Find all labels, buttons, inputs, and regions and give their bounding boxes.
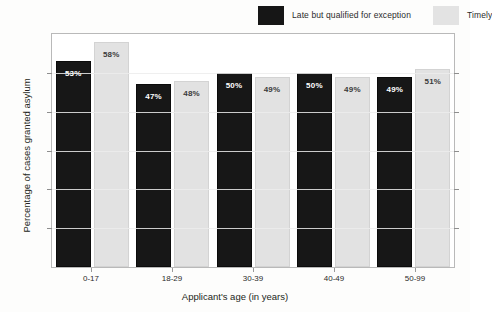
y-axis-title: Percentage of cases granted asylum	[21, 46, 32, 266]
y-tick-mark-right-20	[454, 189, 459, 190]
y-tick-mark-right-40	[454, 112, 459, 113]
x-tick-mark-3	[334, 268, 335, 272]
x-tick-label-18-29: 18-29	[162, 274, 182, 283]
y-tick-mark-right-30	[454, 151, 459, 152]
bar-value-late-40-49: 50%	[298, 81, 331, 90]
bar-value-timely-18-29: 48%	[175, 89, 208, 98]
bar-value-late-50-99: 49%	[378, 85, 411, 94]
gridline-20	[52, 189, 454, 190]
bar-late-0-17[interactable]: 53%	[56, 61, 91, 267]
x-tick-label-50-99: 50-99	[405, 274, 425, 283]
plot-area: 0% 10% 20% 30% 40% 50% 60% 53%	[51, 33, 455, 268]
bar-timely-0-17[interactable]: 58%	[94, 42, 129, 267]
x-tick-mark-0	[91, 268, 92, 272]
bar-timely-18-29[interactable]: 48%	[174, 81, 209, 267]
gridline-10	[52, 228, 454, 229]
bar-value-late-18-29: 47%	[137, 92, 170, 101]
x-tick-mark-4	[415, 268, 416, 272]
bar-timely-30-39[interactable]: 49%	[255, 77, 290, 267]
bar-value-timely-30-39: 49%	[256, 85, 289, 94]
x-tick-mark-2	[253, 268, 254, 272]
legend-label-timely: Timely	[467, 10, 492, 20]
bar-late-50-99[interactable]: 49%	[377, 77, 412, 267]
gridline-30	[52, 151, 454, 152]
bar-value-late-30-39: 50%	[218, 81, 251, 90]
x-tick-label-40-49: 40-49	[324, 274, 344, 283]
gridline-50	[52, 73, 454, 74]
bar-late-40-49[interactable]: 50%	[297, 73, 332, 267]
x-tick-label-30-39: 30-39	[243, 274, 263, 283]
bar-timely-50-99[interactable]: 51%	[415, 69, 450, 267]
gridline-40	[52, 112, 454, 113]
y-tick-mark-right-10	[454, 228, 459, 229]
plot-inner: 0% 10% 20% 30% 40% 50% 60% 53%	[52, 34, 454, 267]
bar-late-30-39[interactable]: 50%	[217, 73, 252, 267]
bar-value-timely-0-17: 58%	[95, 50, 128, 59]
bar-value-timely-40-49: 49%	[336, 85, 369, 94]
bar-value-timely-50-99: 51%	[416, 77, 449, 86]
y-tick-mark-right-50	[454, 73, 459, 74]
bar-timely-40-49[interactable]: 49%	[335, 77, 370, 267]
x-tick-mark-1	[172, 268, 173, 272]
x-axis-title: Applicant's age (in years)	[0, 291, 470, 302]
x-tick-label-0-17: 0-17	[83, 274, 99, 283]
